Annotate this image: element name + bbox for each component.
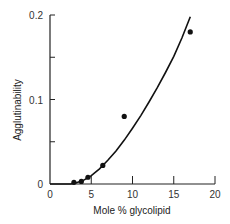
x-axis-label: Mole % glycolipid — [93, 205, 170, 216]
x-tick-label: 0 — [47, 189, 53, 200]
x-tick-label: 10 — [127, 189, 139, 200]
data-point — [79, 179, 84, 184]
y-tick-label: 0.2 — [29, 10, 43, 21]
y-ticks: 00.10.2 — [29, 10, 55, 190]
y-tick-label: 0 — [37, 179, 43, 190]
x-tick-label: 20 — [209, 189, 221, 200]
data-point — [188, 29, 193, 34]
axes — [50, 15, 215, 184]
y-axis-label: Agglutinability — [12, 79, 23, 141]
x-ticks: 05101520 — [47, 176, 221, 200]
x-tick-label: 15 — [168, 189, 180, 200]
data-point — [122, 114, 127, 119]
fit-curve — [50, 17, 190, 184]
x-tick-label: 5 — [88, 189, 94, 200]
data-point — [71, 180, 76, 185]
y-tick-label: 0.1 — [29, 95, 43, 106]
chart: 05101520 00.10.2 Mole % glycolipid Agglu… — [0, 0, 230, 224]
data-point — [100, 163, 105, 168]
data-point — [85, 175, 90, 180]
